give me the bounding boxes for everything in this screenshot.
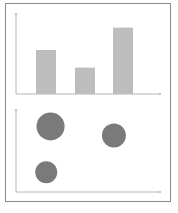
data-point [102,123,126,147]
bar [113,28,133,94]
bar [36,50,56,94]
y-axis-arrow-icon [15,13,17,15]
x-axis-arrow-icon [159,93,161,95]
scatter-chart [15,109,161,193]
bar-chart [15,13,161,95]
data-point [35,161,57,183]
x-axis-arrow-icon [159,191,161,193]
data-point [37,112,65,140]
chart-canvas [0,0,178,213]
y-axis-arrow-icon [15,109,17,111]
bar [75,68,95,94]
